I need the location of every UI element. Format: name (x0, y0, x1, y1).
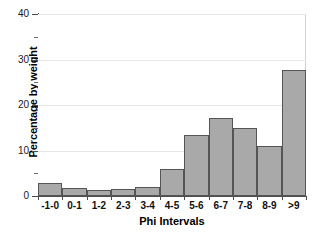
bar (62, 188, 86, 196)
bar-series (38, 14, 306, 196)
y-tick-label: 20 (0, 100, 29, 110)
x-tick-label: 1-2 (87, 200, 111, 212)
x-tick-label: 4-5 (160, 200, 184, 212)
bar (209, 118, 233, 196)
bar (160, 169, 184, 196)
x-tick-label: 2-3 (111, 200, 135, 212)
plot-area (38, 14, 306, 196)
x-tick-label: 3-4 (135, 200, 159, 212)
x-axis-title: Phi Intervals (38, 215, 306, 227)
bar (184, 135, 208, 196)
bar (257, 146, 281, 196)
x-tick-label: 7-8 (233, 200, 257, 212)
bar (233, 128, 257, 196)
y-tick-label: 30 (0, 55, 29, 65)
bar (87, 190, 111, 196)
x-tick-label: 0-1 (62, 200, 86, 212)
bar (135, 187, 159, 196)
x-tick-label: 6-7 (209, 200, 233, 212)
x-tick-label: >9 (282, 200, 306, 212)
y-tick-label: 40 (0, 9, 29, 19)
x-axis-line (38, 196, 307, 197)
x-tick-label: -1-0 (38, 200, 62, 212)
bar (282, 70, 306, 196)
x-tick (306, 196, 307, 200)
bar (111, 189, 135, 196)
bar (38, 183, 62, 196)
y-tick-label: 10 (0, 146, 29, 156)
x-tick-label: 8-9 (257, 200, 281, 212)
x-tick-label: 5-6 (184, 200, 208, 212)
y-tick-label: 0 (0, 191, 29, 201)
chart-figure: Percentage by weight 010203040 -1-00-11-… (0, 0, 314, 233)
